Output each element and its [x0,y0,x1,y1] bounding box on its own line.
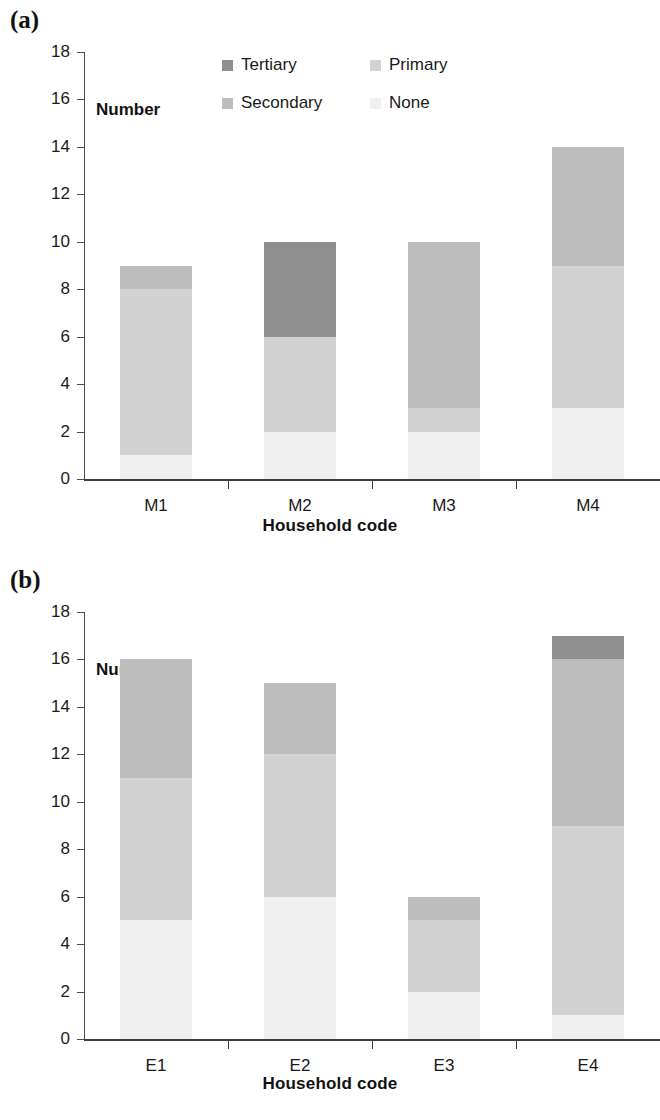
legend-label: None [389,93,430,113]
bar-segment-primary [408,408,480,432]
bar-segment-secondary [552,147,624,266]
bar-segment-secondary [120,266,192,290]
x-axis-title-b: Household code [0,1074,660,1094]
bar-segment-none [552,408,624,479]
stacked-bar [552,636,624,1039]
y-axis-tick-label: 2 [28,982,70,1002]
y-axis-tick [77,52,84,53]
y-axis-title-a: Number [96,100,160,120]
y-axis-tick-label: 12 [28,744,70,764]
bar-segment-secondary [408,897,480,921]
x-axis-tick-label: M1 [96,496,216,516]
y-axis-tick-label: 6 [28,887,70,907]
bar-segment-secondary [120,659,192,778]
bar-segment-primary [264,337,336,432]
y-axis-tick-label: 16 [28,649,70,669]
y-axis-tick-label: 12 [28,184,70,204]
y-axis-tick [77,659,84,660]
x-axis-tick [228,1040,229,1049]
bar-segment-secondary [552,659,624,825]
bar-segment-tertiary [552,636,624,660]
y-axis-tick [77,1039,84,1040]
bar-segment-none [408,992,480,1039]
legend-label: Secondary [241,93,322,113]
y-axis-tick [77,242,84,243]
bar-segment-primary [552,826,624,1016]
legend-item-primary[interactable]: Primary [370,55,518,75]
y-axis-tick-label: 10 [28,232,70,252]
y-axis-tick-label: 10 [28,792,70,812]
x-axis-tick-label: E2 [240,1056,360,1076]
bar-segment-tertiary [264,242,336,337]
y-axis-tick [77,754,84,755]
y-axis-tick [77,99,84,100]
x-axis-tick-label: E1 [96,1056,216,1076]
y-axis-tick-label: 16 [28,89,70,109]
y-axis-tick-label: 0 [28,469,70,489]
y-axis-tick [77,337,84,338]
legend-item-secondary[interactable]: Secondary [222,93,370,113]
y-axis-tick-label: 14 [28,697,70,717]
stacked-bar [264,242,336,479]
y-axis-tick-label: 18 [28,602,70,622]
y-axis-tick-label: 0 [28,1029,70,1049]
panel-letter-a: (a) [10,6,39,34]
legend-swatch-none-icon [370,98,381,109]
x-axis-tick [228,480,229,489]
y-axis-tick [77,944,84,945]
stacked-bar [408,897,480,1039]
y-axis-tick-label: 6 [28,327,70,347]
y-axis-tick-label: 8 [28,839,70,859]
y-axis-tick-label: 4 [28,374,70,394]
x-axis-tick-label: M2 [240,496,360,516]
legend-item-none[interactable]: None [370,93,518,113]
bar-segment-secondary [264,683,336,754]
bar-segment-primary [552,266,624,408]
stacked-bar [408,242,480,479]
x-axis-tick [372,1040,373,1049]
bar-segment-none [264,897,336,1039]
plot-area-b: Number 024681012141618 E1E2E3E4 [0,604,660,1044]
y-axis-tick-label: 8 [28,279,70,299]
stacked-bar [264,683,336,1039]
bar-segment-primary [120,778,192,920]
y-axis-tick [77,897,84,898]
legend-item-tertiary[interactable]: Tertiary [222,55,370,75]
x-axis-tick [372,480,373,489]
stacked-bar [120,659,192,1039]
legend-label: Primary [389,55,448,75]
bar-segment-primary [408,920,480,991]
x-axis-tick-label: E4 [528,1056,648,1076]
x-axis-title-a: Household code [0,516,660,536]
y-axis-tick [77,194,84,195]
y-axis-tick [77,612,84,613]
y-axis-tick [77,289,84,290]
stacked-bar [552,147,624,479]
x-axis-tick-label: M4 [528,496,648,516]
y-axis-tick [77,432,84,433]
x-axis-tick-label: M3 [384,496,504,516]
legend-swatch-primary-icon [370,60,381,71]
bar-segment-primary [264,754,336,896]
legend-swatch-secondary-icon [222,98,233,109]
bar-segment-none [264,432,336,479]
y-axis-tick [77,384,84,385]
y-axis-tick [77,802,84,803]
y-axis-line-a [84,52,85,479]
y-axis-tick [77,479,84,480]
bar-segment-none [120,920,192,1039]
y-axis-tick [77,147,84,148]
chart-panel-a: (a) Number 024681012141618 M1M2M3M4 Hous… [0,0,660,560]
y-axis-tick-label: 14 [28,137,70,157]
legend-swatch-tertiary-icon [222,60,233,71]
bar-segment-none [552,1015,624,1039]
x-axis-tick [516,1040,517,1049]
y-axis-tick [77,707,84,708]
panel-letter-b: (b) [10,566,41,594]
x-axis-tick [516,480,517,489]
bar-segment-primary [120,289,192,455]
y-axis-tick [77,849,84,850]
stacked-bar [120,266,192,480]
y-axis-line-b [84,612,85,1039]
bar-segment-none [120,455,192,479]
